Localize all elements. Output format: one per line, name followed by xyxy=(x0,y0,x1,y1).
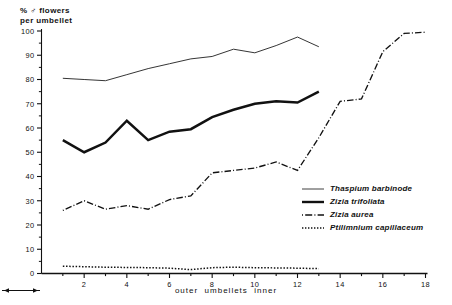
x-axis-label-inner: inner xyxy=(254,286,277,295)
legend-item-label: Zizia aurea xyxy=(326,210,374,219)
series-line xyxy=(63,266,319,269)
y-tick-label: 60 xyxy=(25,124,34,133)
x-axis-label-outer: outer xyxy=(175,286,198,295)
y-tick-label: 70 xyxy=(25,100,34,109)
dash-dot-key-icon xyxy=(300,210,326,220)
y-tick-label: 20 xyxy=(25,221,34,230)
legend: Thaspium barbinode Zizia trifoliata Zizi… xyxy=(300,182,450,234)
y-tick-label: 0 xyxy=(30,269,35,278)
plot-area: 010203040506070809010024681012141618 xyxy=(0,0,452,305)
y-tick-label: 30 xyxy=(25,197,34,206)
x-axis-label: outer umbellets inner xyxy=(0,286,452,295)
legend-item-label: Zizia trifoliata xyxy=(326,197,385,206)
legend-item: Thaspium barbinode xyxy=(300,182,450,195)
dotted-key-icon xyxy=(300,223,326,233)
y-tick-label: 80 xyxy=(25,75,34,84)
legend-item: Zizia aurea xyxy=(300,208,450,221)
legend-item: Zizia trifoliata xyxy=(300,195,450,208)
x-axis-label-umbellets: umbellets xyxy=(205,286,248,295)
legend-item: Ptilimnium capillaceum xyxy=(300,221,450,234)
chart-figure: % ♂ flowers per umbellet 010203040506070… xyxy=(0,0,452,305)
solid-thick-key-icon xyxy=(300,197,326,207)
y-tick-label: 40 xyxy=(25,172,34,181)
series-line xyxy=(63,37,319,81)
y-tick-label: 50 xyxy=(25,148,34,157)
y-tick-label: 100 xyxy=(21,27,35,36)
y-tick-label: 90 xyxy=(25,51,34,60)
legend-item-label: Thaspium barbinode xyxy=(326,184,412,193)
series-line xyxy=(63,92,319,153)
solid-thin-key-icon xyxy=(300,184,326,194)
y-tick-label: 10 xyxy=(25,245,34,254)
legend-item-label: Ptilimnium capillaceum xyxy=(326,223,423,232)
